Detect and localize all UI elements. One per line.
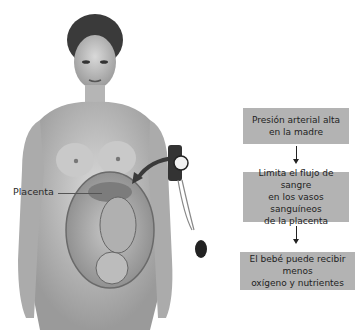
step-2-line-1: Limita el flujo de sangre	[243, 167, 349, 191]
step-3-line-1: El bebé puede recibir menos	[240, 253, 355, 277]
pregnant-woman-illustration	[0, 0, 240, 330]
bp-bulb-icon	[195, 240, 207, 258]
fetus-body	[100, 197, 136, 253]
fetus-head	[96, 252, 128, 284]
placenta-label: Placenta	[13, 186, 54, 197]
bp-gauge-icon	[174, 156, 188, 170]
placenta-leader-line	[58, 193, 102, 194]
step-3-line-2: oxígeno y nutrientes	[251, 277, 344, 289]
flow-step-3: El bebé puede recibir menos oxígeno y nu…	[240, 252, 355, 290]
down-arrow-icon	[296, 146, 297, 160]
step-2-line-2: en los vasos sanguíneos	[243, 191, 349, 215]
step-1-line-2: en la madre	[269, 126, 323, 138]
flow-step-2: Limita el flujo de sangre en los vasos s…	[243, 172, 349, 222]
step-1-line-1: Presión arterial alta	[252, 114, 340, 126]
down-arrow-icon	[296, 226, 297, 240]
flow-step-1: Presión arterial alta en la madre	[243, 108, 349, 144]
